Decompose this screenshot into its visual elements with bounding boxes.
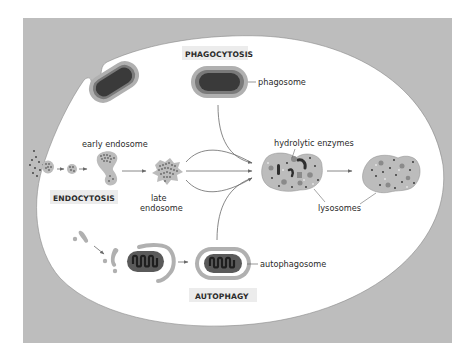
mitochondrion — [127, 251, 164, 272]
endocytosis-label: ENDOCYTOSIS — [53, 194, 115, 203]
lysosome-pathways-diagram: PHAGOCYTOSIS phagosome — [0, 0, 471, 360]
phagosome-label: phagosome — [258, 77, 306, 87]
small-endocytic-vesicle — [67, 164, 77, 174]
phagocytosis-label: PHAGOCYTOSIS — [185, 50, 253, 59]
autophagy-label: AUTOPHAGY — [195, 292, 249, 301]
autophagosome — [195, 247, 251, 280]
lysosome-secondary — [363, 155, 421, 193]
late-endosome-label-line1: late — [151, 193, 167, 203]
early-endosome-label: early endosome — [82, 139, 148, 149]
late-endosome-label-line2: endosome — [140, 203, 183, 213]
autophagosome-label: autophagosome — [260, 259, 326, 269]
phagosome — [191, 66, 248, 98]
lysosomes-label: lysosomes — [318, 203, 361, 213]
hydrolytic-enzymes-label: hydrolytic enzymes — [274, 138, 354, 148]
